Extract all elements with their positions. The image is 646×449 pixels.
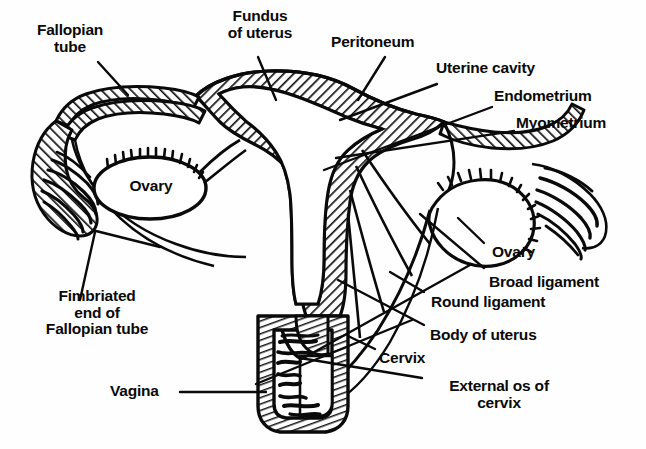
label-endometrium: Endometrium [494, 88, 592, 105]
label-ovary-left: Ovary [112, 178, 190, 195]
ovary-left-ligament-2 [204, 150, 246, 183]
ovary-left-ligament [200, 140, 240, 172]
fimbriae-right-fringe [536, 168, 597, 259]
label-fimbriated-end: Fimbriated end of Fallopian tube [18, 288, 176, 338]
label-vagina: Vagina [110, 383, 159, 400]
leader-peritoneum [358, 57, 385, 100]
label-uterine-cavity: Uterine cavity [436, 60, 535, 77]
label-peritoneum: Peritoneum [331, 34, 414, 51]
label-fundus-of-uterus: Fundus of uterus [198, 8, 322, 41]
label-cervix: Cervix [379, 350, 425, 367]
label-ovary-right: Ovary [492, 244, 535, 261]
leader-body-of-uterus [338, 280, 424, 325]
label-fallopian-tube: Fallopian tube [14, 22, 126, 55]
label-external-os-of-cervix: External os of cervix [424, 378, 574, 411]
label-myometrium: Myometrium [516, 115, 606, 132]
label-broad-ligament: Broad ligament [489, 274, 599, 291]
label-body-of-uterus: Body of uterus [430, 327, 537, 344]
label-round-ligament: Round ligament [431, 294, 545, 311]
anatomy-diagram: Fallopian tube Fundus of uterus Peritone… [0, 0, 646, 449]
